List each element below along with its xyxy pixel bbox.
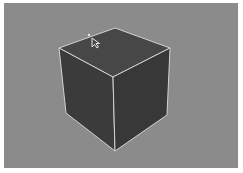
3d-viewport[interactable] xyxy=(4,3,238,168)
cube-object[interactable] xyxy=(59,28,170,151)
vertex-highlight xyxy=(88,34,90,36)
viewport-canvas[interactable] xyxy=(4,3,238,168)
